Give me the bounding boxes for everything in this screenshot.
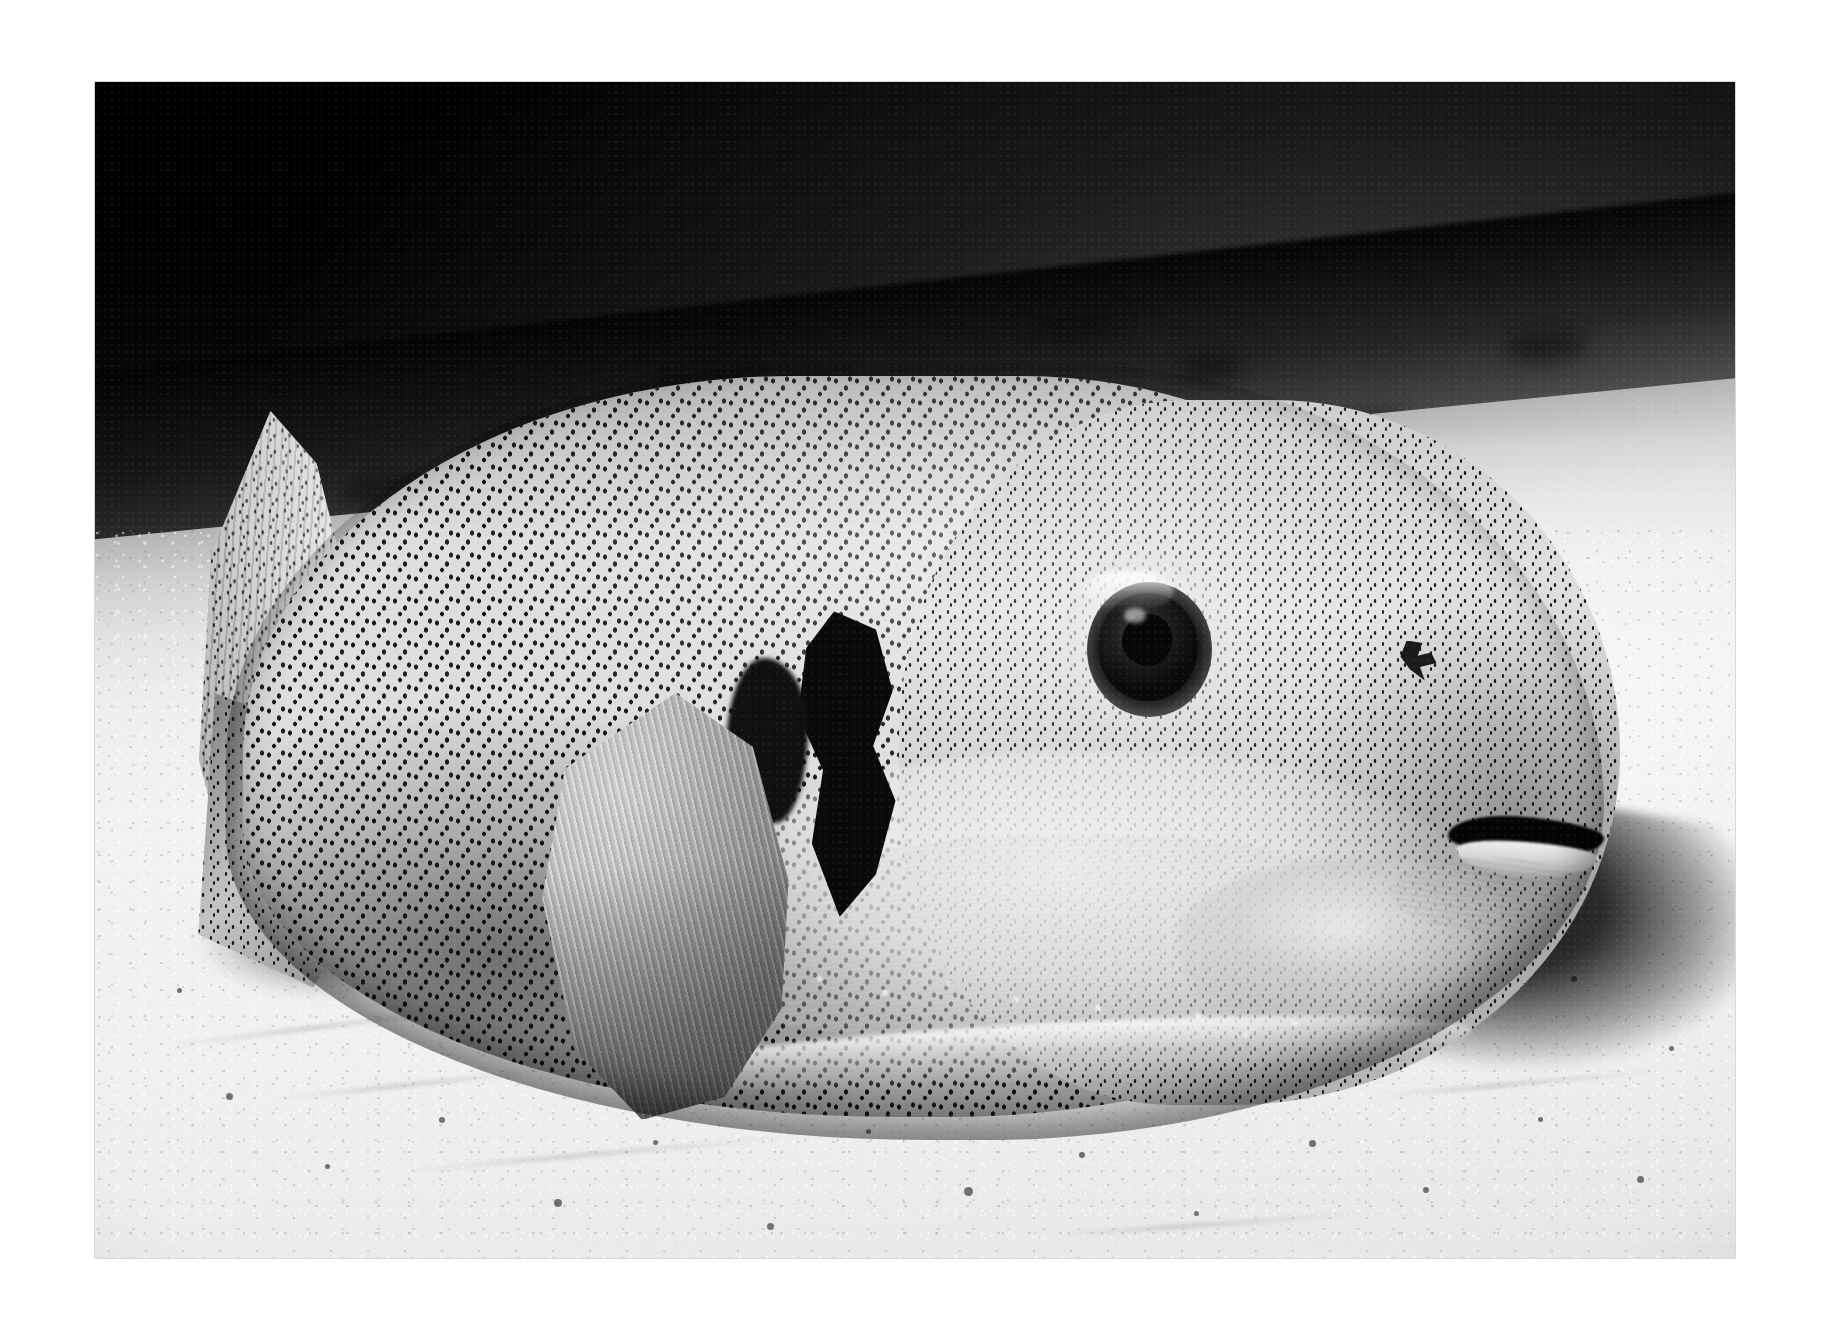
mouth-folds — [1391, 858, 1588, 929]
clinging-sand-grain — [817, 976, 822, 981]
clinging-sand-grain — [1145, 1023, 1150, 1028]
page-root: Black-and-white underwater photograph of… — [0, 0, 1826, 1340]
eye — [1087, 582, 1212, 717]
pufferfish — [95, 82, 1735, 1258]
eye-upper-lid-highlight — [1082, 571, 1174, 612]
photograph — [95, 82, 1735, 1258]
